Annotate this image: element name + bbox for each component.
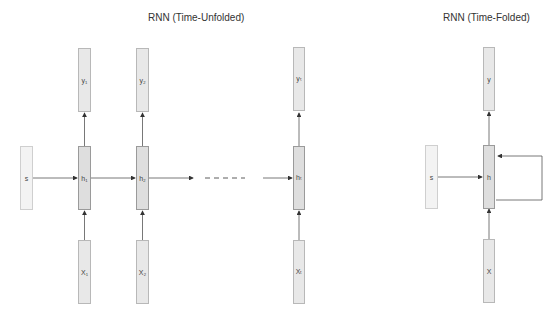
initial-state-label: s: [25, 175, 29, 182]
folded-state-label: s: [430, 174, 434, 181]
folded-input-box: X: [483, 239, 495, 303]
folded-input-label: X: [487, 268, 492, 275]
initial-state-box: s: [20, 146, 33, 210]
input-box-2: X₂: [136, 240, 149, 304]
output-label-2: y₂: [139, 77, 145, 84]
hidden-box-t: hₜ: [293, 146, 305, 210]
folded-hidden-label: h: [487, 174, 491, 181]
folded-output-label: y: [487, 76, 491, 83]
hidden-label-1: h₁: [81, 175, 87, 182]
input-box-1: X₁: [78, 240, 91, 304]
input-label-1: X₁: [81, 269, 88, 276]
output-label-t: yₜ: [296, 75, 302, 83]
rnn-diagram: RNN (Time-Unfolded) RNN (Time-Folded): [0, 0, 560, 316]
output-box-2: y₂: [136, 48, 149, 112]
hidden-label-t: hₜ: [296, 174, 302, 182]
input-label-2: X₂: [139, 269, 146, 276]
output-box-t: yₜ: [293, 47, 305, 111]
folded-state-box: s: [425, 145, 438, 209]
hidden-label-2: h₂: [139, 175, 146, 182]
hidden-box-1: h₁: [78, 146, 91, 210]
folded-hidden-box: h: [483, 145, 495, 209]
folded-output-box: y: [483, 47, 495, 111]
input-box-t: Xₜ: [293, 240, 305, 304]
input-label-t: Xₜ: [296, 268, 303, 276]
output-box-1: y₁: [78, 48, 91, 112]
output-label-1: y₁: [82, 77, 88, 84]
hidden-box-2: h₂: [136, 146, 149, 210]
